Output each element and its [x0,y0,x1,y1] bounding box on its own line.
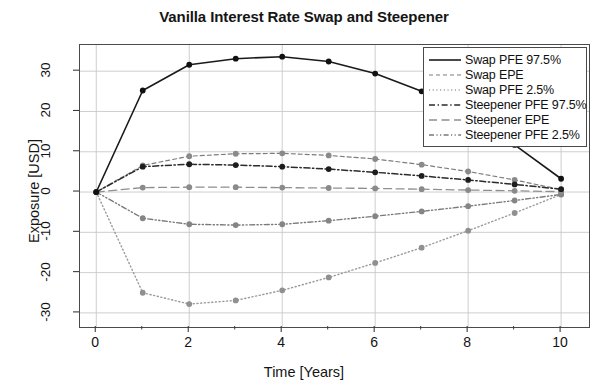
x-tick-label: 8 [447,334,487,350]
data-point-marker [419,208,425,214]
chart-title: Vanilla Interest Rate Swap and Steepener [0,8,608,25]
legend-line-sample [428,68,462,82]
legend-label: Steepener PFE 97.5% [465,98,587,112]
series-line [96,192,561,304]
data-point-marker [140,290,146,296]
data-point-marker [372,71,378,77]
data-point-marker [326,185,332,191]
legend-line-sample [428,113,462,127]
y-axis-title: Exposure [USD] [26,81,42,301]
data-point-marker [233,56,239,62]
data-point-marker [93,189,99,195]
data-point-marker [372,213,378,219]
data-point-marker [512,198,518,204]
legend-line-sample [428,128,462,142]
data-point-marker [326,166,332,172]
data-point-marker [233,162,239,168]
x-tick-label: 6 [354,334,394,350]
data-point-marker [465,228,471,234]
legend-item: Swap EPE [428,67,581,82]
data-point-marker [279,287,285,293]
data-point-marker [279,221,285,227]
data-point-marker [512,181,518,187]
data-point-marker [233,298,239,304]
legend-item: Swap PFE 97.5% [428,52,581,67]
data-point-marker [558,186,564,192]
data-point-marker [233,184,239,190]
data-point-marker [279,164,285,170]
legend-line-sample [428,83,462,97]
data-point-marker [512,210,518,216]
data-point-marker [326,152,332,158]
data-point-marker [279,150,285,156]
data-point-marker [512,188,518,194]
data-point-marker [186,184,192,190]
data-point-marker [140,215,146,221]
data-point-marker [419,186,425,192]
data-point-marker [372,260,378,266]
data-point-marker [326,59,332,65]
x-tick-label: 2 [168,334,208,350]
data-point-marker [186,301,192,307]
data-point-marker [233,151,239,157]
data-point-marker [186,221,192,227]
x-axis-title: Time [Years] [0,364,608,380]
data-point-marker [279,54,285,60]
data-point-marker [465,177,471,183]
data-point-marker [419,173,425,179]
x-tick-label: 0 [75,334,115,350]
y-tick-label: -30 [0,304,71,320]
data-point-marker [279,185,285,191]
data-point-marker [326,275,332,281]
data-point-marker [140,164,146,170]
data-point-marker [372,186,378,192]
chart-legend: Swap PFE 97.5%Swap EPESwap PFE 2.5%Steep… [423,47,587,147]
data-point-marker [465,203,471,209]
data-point-marker [326,218,332,224]
data-point-marker [233,222,239,228]
data-point-marker [419,245,425,251]
legend-item: Steepener PFE 97.5% [428,97,581,112]
legend-item: Swap PFE 2.5% [428,82,581,97]
data-point-marker [186,153,192,159]
data-point-marker [465,169,471,175]
legend-label: Swap PFE 2.5% [465,83,554,97]
legend-item: Steepener EPE [428,112,581,127]
legend-label: Steepener EPE [465,113,549,127]
legend-item: Steepener PFE 2.5% [428,127,581,142]
legend-line-sample [428,98,462,112]
legend-label: Steepener PFE 2.5% [465,128,580,142]
data-point-marker [186,161,192,167]
legend-label: Swap PFE 97.5% [465,53,561,67]
x-tick-label: 10 [540,334,580,350]
data-point-marker [140,185,146,191]
data-point-marker [186,62,192,68]
data-point-marker [372,169,378,175]
data-point-marker [140,88,146,94]
legend-line-sample [428,53,462,67]
data-point-marker [419,162,425,168]
data-point-marker [372,156,378,162]
legend-label: Swap EPE [465,68,524,82]
data-point-marker [558,176,564,182]
data-point-marker [465,187,471,193]
chart-root: Vanilla Interest Rate Swap and Steepener… [0,0,608,391]
y-tick-label: 30 [0,62,71,78]
x-tick-label: 4 [261,334,301,350]
